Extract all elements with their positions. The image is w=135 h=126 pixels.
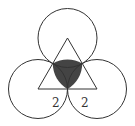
side-label-left: 2 — [52, 96, 60, 110]
geometry-figure: 2 2 — [0, 0, 135, 126]
diagram-canvas: 2 2 — [0, 0, 135, 126]
side-label-right: 2 — [81, 96, 89, 110]
